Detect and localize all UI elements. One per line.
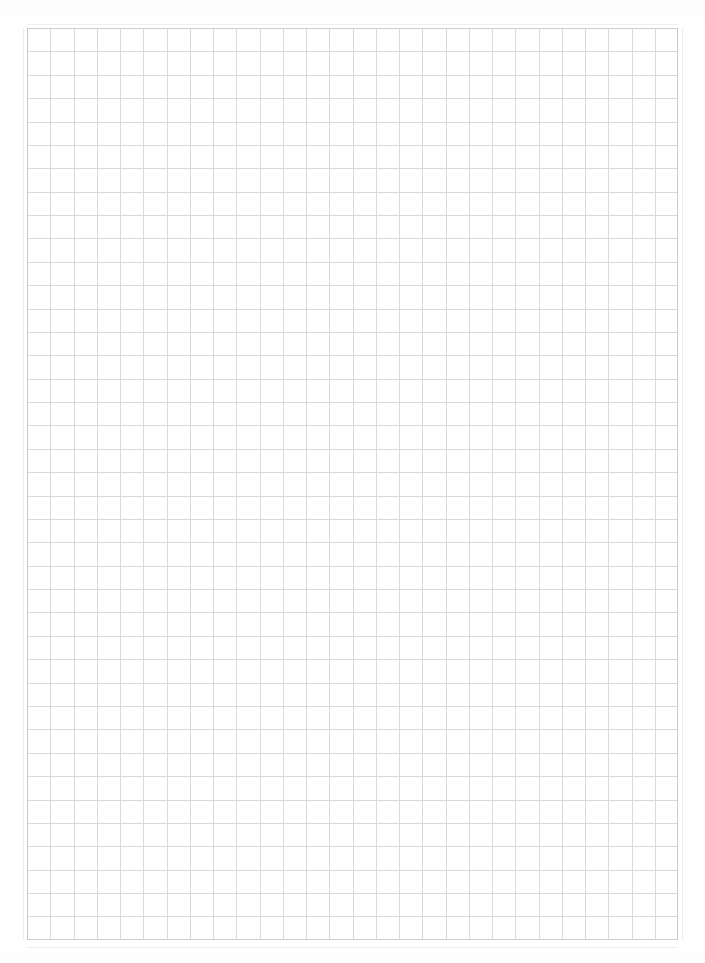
right-ghost-rule (682, 28, 683, 940)
page-canvas (0, 0, 705, 963)
left-ghost-rule (23, 28, 24, 940)
grid-paper-ruling (27, 28, 678, 940)
grid-cell-lines (27, 28, 678, 940)
top-ghost-rule (27, 24, 678, 25)
bottom-ghost-rule (27, 947, 678, 948)
